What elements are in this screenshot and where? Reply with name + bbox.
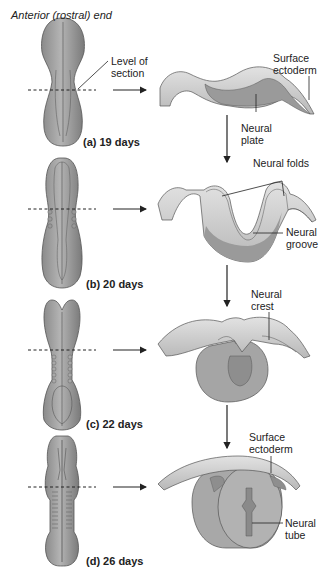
label-neural-tube-2: tube xyxy=(285,529,305,541)
label-neural-plate-2: plate xyxy=(241,134,264,146)
embryo-20-days xyxy=(42,158,82,288)
label-neural-groove-2: groove xyxy=(286,238,318,250)
label-level-of-section-1: Level of xyxy=(111,55,148,67)
label-neural-crest-2: crest xyxy=(251,300,274,312)
label-neural-tube-1: Neural xyxy=(285,517,316,529)
label-neural-plate-1: Neural xyxy=(241,122,272,134)
stage-label-d: (d) 26 days xyxy=(86,555,143,567)
embryo-22-days xyxy=(43,300,80,430)
label-neural-groove-1: Neural xyxy=(286,226,317,238)
stage-label-a: (a) 19 days xyxy=(83,136,140,148)
neural-groove-section xyxy=(158,182,316,262)
stage-label-b: (b) 20 days xyxy=(86,278,143,290)
label-level-of-section-2: section xyxy=(111,67,144,79)
label-neural-folds: Neural folds xyxy=(253,157,309,169)
label-surface-ectoderm-a1: Surface xyxy=(273,52,309,64)
neural-crest-section xyxy=(158,317,310,402)
neural-tube-section xyxy=(158,456,300,548)
label-surface-ectoderm-a2: ectoderm xyxy=(273,64,317,76)
stage-label-c: (c) 22 days xyxy=(86,418,143,430)
diagram-title: Anterior (rostral) end xyxy=(11,9,112,21)
label-surface-ectoderm-d2: ectoderm xyxy=(249,443,293,455)
embryo-19-days xyxy=(42,18,85,146)
label-surface-ectoderm-d1: Surface xyxy=(249,431,285,443)
label-neural-crest-1: Neural xyxy=(251,288,282,300)
embryo-26-days xyxy=(45,436,79,566)
